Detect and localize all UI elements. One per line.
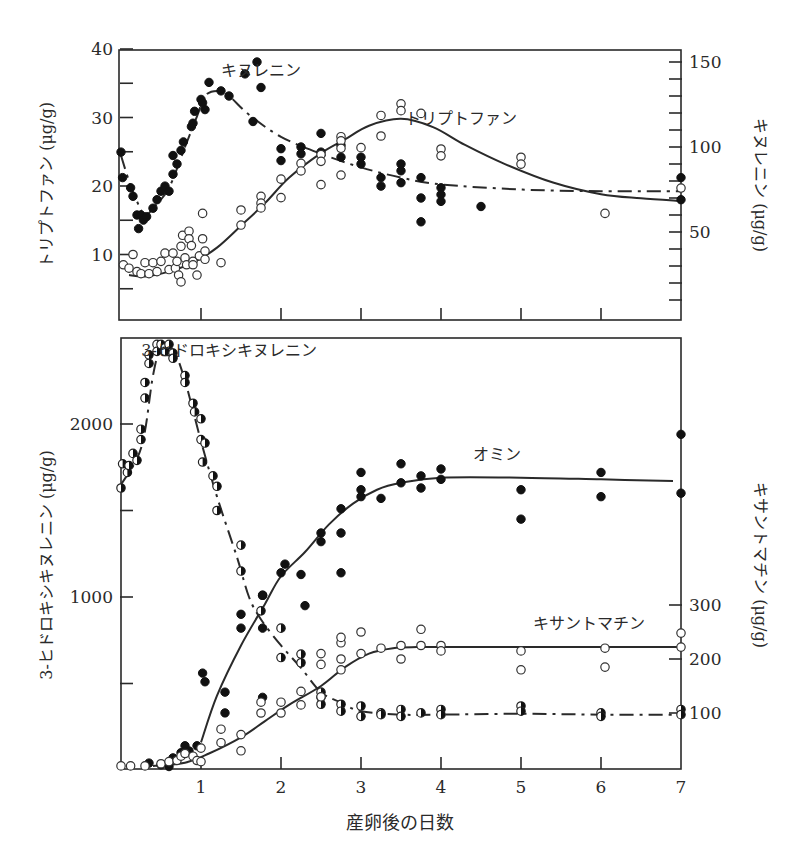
data-point-open xyxy=(145,269,153,277)
data-point-open xyxy=(198,235,206,243)
data-point-open xyxy=(677,643,685,651)
data-point-filled xyxy=(169,151,177,159)
x-tick-label: 6 xyxy=(596,777,607,797)
data-point-filled xyxy=(237,624,245,632)
data-point-filled xyxy=(677,196,685,204)
data-point-filled xyxy=(397,460,405,468)
data-point-open xyxy=(257,698,265,706)
top-points xyxy=(117,58,685,286)
data-point-open xyxy=(217,739,225,747)
data-point-open xyxy=(417,625,425,633)
data-point-filled xyxy=(337,505,345,513)
data-point-open xyxy=(397,655,405,663)
data-point-filled xyxy=(397,479,405,487)
data-point-filled xyxy=(277,569,285,577)
x-tick-label: 7 xyxy=(676,777,687,797)
x-tick-label: 2 xyxy=(276,777,287,797)
data-point-open xyxy=(417,641,425,649)
data-point-filled xyxy=(189,119,197,127)
data-point-filled xyxy=(397,179,405,187)
data-point-filled xyxy=(173,160,181,168)
data-point-filled xyxy=(317,129,325,137)
data-point-open xyxy=(157,760,165,768)
left-tick-label: 20 xyxy=(91,176,113,196)
x-tick-label: 3 xyxy=(356,777,367,797)
data-point-open xyxy=(237,221,245,229)
data-point-filled xyxy=(142,213,150,221)
data-point-open xyxy=(277,709,285,717)
data-point-filled xyxy=(337,569,345,577)
data-point-open xyxy=(277,698,285,706)
data-point-filled xyxy=(221,709,229,717)
data-point-open xyxy=(237,206,245,214)
data-point-open xyxy=(153,267,161,275)
data-point-filled xyxy=(281,560,289,568)
data-point-filled xyxy=(597,468,605,476)
left-tick-label: 1000 xyxy=(70,587,113,607)
data-point-filled xyxy=(198,669,206,677)
data-point-open xyxy=(377,132,385,140)
data-point-filled xyxy=(297,570,305,578)
data-point-open xyxy=(337,655,345,663)
data-point-open xyxy=(177,242,185,250)
left-tick-label: 30 xyxy=(91,108,113,128)
data-point-filled xyxy=(437,197,445,205)
data-point-filled xyxy=(190,107,198,115)
data-point-open xyxy=(237,747,245,755)
right-tick-label: 50 xyxy=(689,222,711,242)
data-point-open xyxy=(397,641,405,649)
right-tick-label: 100 xyxy=(689,137,721,157)
data-point-open xyxy=(187,241,195,249)
data-point-filled xyxy=(126,184,134,192)
data-point-open xyxy=(141,259,149,267)
data-point-open xyxy=(317,180,325,188)
top-x-axis-ticks xyxy=(201,308,601,320)
data-point-filled xyxy=(237,610,245,618)
x-axis-title: 産卵後の日数 xyxy=(346,812,454,833)
data-point-open xyxy=(277,175,285,183)
data-point-filled xyxy=(149,204,157,212)
data-point-filled xyxy=(677,173,685,181)
data-point-open xyxy=(601,663,609,671)
data-point-open xyxy=(149,259,157,267)
right-tick-label: 300 xyxy=(689,595,721,615)
data-point-filled xyxy=(517,515,525,523)
data-point-filled xyxy=(169,170,177,178)
bottom-x-axis-ticks: 1234567 xyxy=(196,757,687,797)
data-point-filled xyxy=(129,192,137,200)
data-point-open xyxy=(181,749,189,757)
data-point-open xyxy=(193,271,201,279)
data-point-open xyxy=(297,701,305,709)
data-point-open xyxy=(297,687,305,695)
data-point-filled xyxy=(118,173,126,181)
data-point-open xyxy=(117,762,125,770)
data-point-filled xyxy=(249,117,257,125)
data-point-open xyxy=(161,249,169,257)
left-tick-label: 2000 xyxy=(70,414,113,434)
data-point-filled xyxy=(357,160,365,168)
series-label: オミン xyxy=(473,445,521,464)
top-left-axis-title: トリプトファン (μg/g) xyxy=(37,102,56,268)
data-point-open xyxy=(317,693,325,701)
data-point-open xyxy=(437,152,445,160)
data-point-filled xyxy=(417,472,425,480)
data-point-open xyxy=(129,250,137,258)
data-point-open xyxy=(317,649,325,657)
bottom-curves xyxy=(121,345,681,766)
data-point-filled xyxy=(337,529,345,537)
data-point-filled xyxy=(179,138,187,146)
data-point-filled xyxy=(153,196,161,204)
data-point-filled xyxy=(437,465,445,473)
data-point-filled xyxy=(417,194,425,202)
data-point-filled xyxy=(517,486,525,494)
data-point-filled xyxy=(377,494,385,502)
data-point-filled xyxy=(317,529,325,537)
data-point-open xyxy=(397,106,405,114)
data-point-open xyxy=(601,644,609,652)
bottom-plot-frame xyxy=(121,338,681,769)
data-point-open xyxy=(201,247,209,255)
data-point-filled xyxy=(677,430,685,438)
data-point-filled xyxy=(477,202,485,210)
figure: 10203040 50100150 キヌレニントリプトファン トリプトファン (… xyxy=(0,0,789,861)
bottom-right-axis-title: キサントマチン (μg/g) xyxy=(751,482,770,648)
